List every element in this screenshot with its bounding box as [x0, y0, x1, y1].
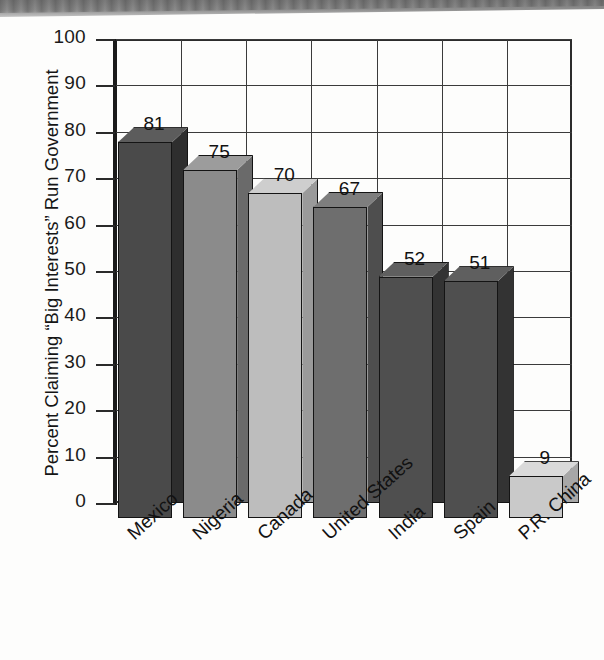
x-category-label-india: India [384, 500, 429, 544]
y-tick-mark-30 [96, 364, 115, 366]
x-category-label-nigeria: Nigeria [188, 488, 247, 545]
y-tick-mark-80 [96, 132, 115, 134]
bar-value-label-p-r-china: 9 [515, 447, 575, 469]
bar-value-label-india: 52 [385, 248, 445, 270]
bar-value-label-canada: 70 [254, 164, 314, 186]
y-tick-mark-10 [96, 457, 115, 459]
bar-value-label-united-states: 67 [319, 178, 379, 200]
y-tick-mark-40 [96, 317, 115, 319]
y-tick-mark-20 [96, 410, 115, 412]
x-category-label-spain: Spain [449, 495, 500, 544]
y-tick-mark-70 [96, 178, 115, 180]
y-tick-mark-0 [96, 503, 115, 505]
bar-value-label-spain: 51 [450, 252, 510, 274]
x-category-label-canada: Canada [253, 483, 317, 544]
bar-value-label-mexico: 81 [124, 113, 184, 135]
chart-page: 1009080706050403020100 Percent Claiming … [0, 0, 604, 660]
y-tick-mark-100 [96, 39, 115, 41]
x-category-label-p-r-china: P.R. China [514, 468, 595, 544]
y-tick-mark-90 [96, 85, 115, 87]
y-tick-mark-60 [96, 225, 115, 227]
bar-value-label-nigeria: 75 [189, 141, 249, 163]
y-tick-mark-50 [96, 271, 115, 273]
x-axis-category-labels: 81Mexico75Nigeria70Canada67United States… [0, 0, 604, 660]
x-category-label-mexico: Mexico [123, 488, 182, 545]
